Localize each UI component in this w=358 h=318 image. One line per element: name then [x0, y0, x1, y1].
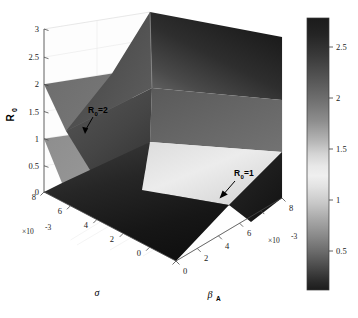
y-axis-title: β A — [207, 289, 221, 302]
y-multiplier-base: ×10 — [268, 236, 280, 245]
z-tick-2_5: 2.5 — [28, 52, 39, 62]
z-axis-title-main: R — [5, 114, 16, 122]
z-tick-3: 3 — [35, 24, 39, 34]
colorbar-tick-0_5: 0.5 — [336, 246, 347, 256]
y-tick-6: 6 — [247, 228, 251, 238]
y-multiplier-exp: -3 — [291, 232, 297, 241]
x-multiplier-base: ×10 — [22, 227, 34, 236]
z-tick-0_5: 0.5 — [28, 161, 39, 171]
z-tick-1: 1 — [35, 134, 39, 144]
y-tick-8: 8 — [289, 203, 293, 213]
y-tick-4: 4 — [225, 241, 230, 251]
z-axis: 0 0.5 1 1.5 2 2.5 3 R 0 — [5, 24, 49, 197]
x-tick-0: 0 — [137, 248, 141, 258]
colorbar-tick-2: 2 — [336, 93, 340, 103]
y-axis-title-main: β — [207, 289, 213, 300]
z-tick-2: 2 — [35, 79, 39, 89]
annotation-r0-1-suffix: =1 — [244, 168, 254, 178]
figure-container: 0 0.5 1 1.5 2 2.5 3 R 0 8 6 4 2 0 ×10 -3 — [0, 0, 358, 318]
surface-upper-right-fold — [150, 12, 282, 100]
z-axis-title-sub: 0 — [11, 108, 18, 112]
z-axis-title: R 0 — [5, 108, 18, 122]
colorbar[interactable]: 2.5 2 1.5 1 0.5 — [307, 18, 347, 290]
x-axis-title: σ — [95, 287, 101, 298]
x-tick-8: 8 — [32, 192, 36, 202]
x-tick-2: 2 — [110, 234, 114, 244]
y-axis-title-sub: A — [216, 295, 221, 302]
annotation-r0-1-label: R — [234, 168, 240, 178]
annotation-r0-2-suffix: =2 — [98, 105, 108, 115]
colorbar-gradient[interactable] — [307, 18, 329, 290]
colorbar-ticks — [329, 47, 333, 251]
colorbar-tick-1_5: 1.5 — [336, 144, 347, 154]
x-tick-4: 4 — [84, 220, 89, 230]
surface-plot-svg: 0 0.5 1 1.5 2 2.5 3 R 0 8 6 4 2 0 ×10 -3 — [0, 0, 358, 318]
x-axis-multiplier: ×10 -3 — [22, 223, 51, 236]
x-tick-6: 6 — [58, 206, 62, 216]
colorbar-tick-1: 1 — [336, 195, 340, 205]
z-tick-1_5: 1.5 — [28, 107, 39, 117]
y-tick-0: 0 — [183, 266, 187, 276]
y-tick-2: 2 — [204, 253, 208, 263]
annotation-r0-2-label: R — [88, 105, 94, 115]
x-multiplier-exp: -3 — [45, 223, 51, 232]
colorbar-tick-2_5: 2.5 — [336, 42, 347, 52]
y-axis-multiplier: ×10 -3 — [268, 232, 297, 245]
